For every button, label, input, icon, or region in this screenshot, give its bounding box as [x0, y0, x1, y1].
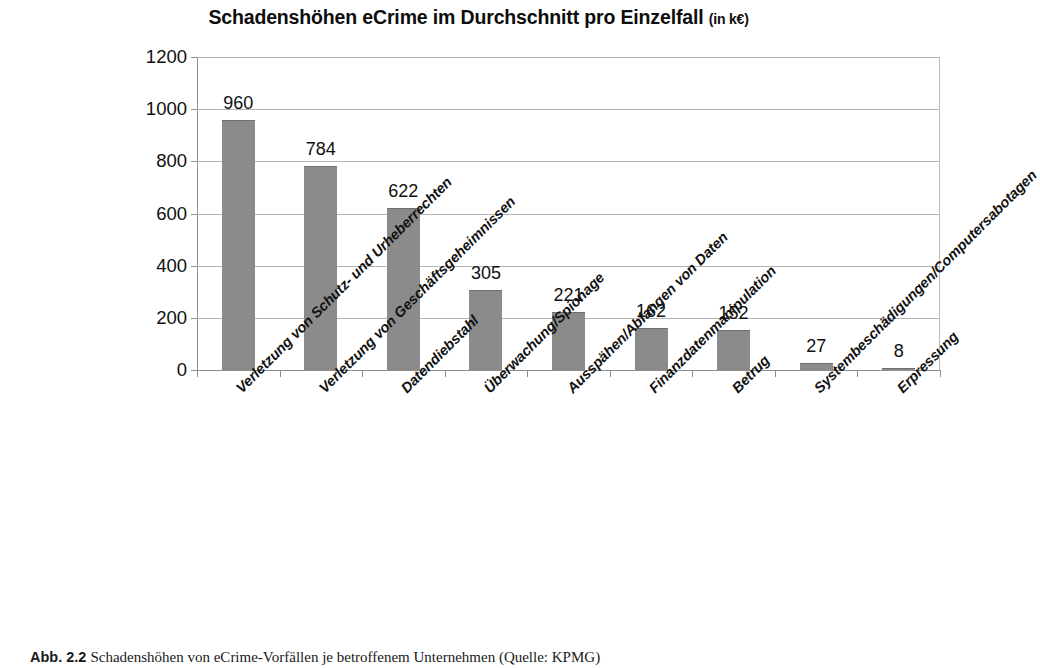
bar-value-label: 960: [223, 94, 253, 112]
caption-number: Abb. 2.2: [30, 649, 86, 665]
x-tick: [610, 370, 611, 377]
y-tick-400: [191, 266, 197, 267]
gridline-1000: [197, 109, 940, 110]
y-tick-label-200: 200: [156, 309, 187, 328]
bar[interactable]: [304, 166, 337, 370]
gridline-1200: [197, 57, 940, 58]
chart-title-text: Schadenshöhen eCrime im Durchschnitt pro…: [208, 6, 703, 28]
y-tick-1200: [191, 57, 197, 58]
y-tick-200: [191, 318, 197, 319]
x-tick: [857, 370, 858, 377]
y-tick-label-600: 600: [156, 204, 187, 223]
x-tick: [692, 370, 693, 377]
y-tick-label-1200: 1200: [146, 48, 187, 67]
bar-value-label: 622: [388, 182, 418, 200]
figure-caption: Abb. 2.2Schadenshöhen von eCrime-Vorfäll…: [30, 648, 930, 666]
x-tick: [940, 370, 941, 377]
bar[interactable]: [717, 330, 750, 370]
y-tick-600: [191, 214, 197, 215]
bar[interactable]: [635, 328, 668, 370]
chart-title: Schadenshöhen eCrime im Durchschnitt pro…: [0, 6, 957, 29]
x-tick: [280, 370, 281, 377]
bar-value-label: 305: [471, 264, 501, 282]
x-tick: [197, 370, 198, 377]
x-tick: [445, 370, 446, 377]
x-tick: [362, 370, 363, 377]
gridline-800: [197, 161, 940, 162]
bar-value-label: 784: [306, 140, 336, 158]
x-tick: [527, 370, 528, 377]
bar[interactable]: [222, 120, 255, 370]
y-tick-800: [191, 161, 197, 162]
caption-text: Schadenshöhen von eCrime-Vorfällen je be…: [90, 649, 600, 665]
bar-value-label: 27: [806, 337, 826, 355]
y-tick-label-0: 0: [177, 361, 187, 380]
x-tick: [775, 370, 776, 377]
y-tick-label-800: 800: [156, 152, 187, 171]
bar-value-label: 8: [894, 342, 904, 360]
y-tick-label-400: 400: [156, 256, 187, 275]
chart-title-unit: (in k€): [709, 11, 749, 27]
y-tick-1000: [191, 109, 197, 110]
y-tick-label-1000: 1000: [146, 100, 187, 119]
